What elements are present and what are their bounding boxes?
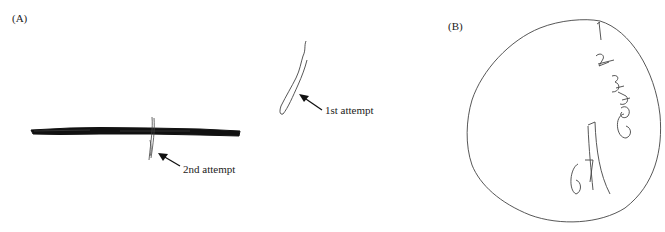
panel-a-line-bisection: (A) 1st attempt 2nd attempt — [0, 0, 400, 232]
arrow-first-attempt — [299, 94, 322, 110]
line-bisection-drawing — [0, 0, 400, 232]
clock-drawing — [400, 0, 665, 232]
arrow-second-attempt — [158, 153, 180, 166]
second-attempt-mark — [149, 117, 154, 160]
clock-numbers — [571, 22, 631, 194]
panel-b-clock-drawing: (B) — [400, 0, 665, 232]
second-attempt-label: 2nd attempt — [183, 163, 235, 175]
clock-face-outline — [467, 20, 660, 222]
first-attempt-label: 1st attempt — [325, 104, 374, 116]
first-attempt-mark — [280, 41, 307, 114]
stimulus-line — [31, 128, 240, 137]
